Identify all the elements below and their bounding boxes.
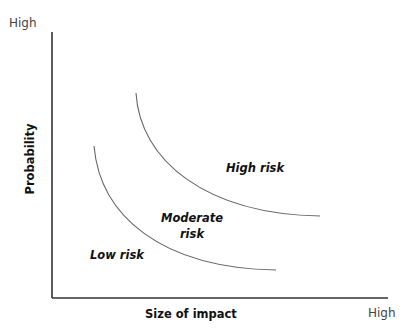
region-moderate-risk-line1: Moderate bbox=[157, 210, 227, 226]
curve-moderate-high bbox=[136, 93, 320, 216]
region-moderate-risk-line2: risk bbox=[157, 226, 227, 242]
x-axis-high-label: High bbox=[368, 306, 396, 320]
y-axis-title: Probability bbox=[23, 119, 37, 199]
x-axis-title: Size of impact bbox=[145, 307, 237, 321]
region-high-risk: High risk bbox=[226, 160, 284, 176]
y-axis-high-label: High bbox=[9, 16, 37, 30]
region-low-risk: Low risk bbox=[90, 247, 144, 263]
risk-diagram-canvas bbox=[0, 0, 406, 333]
region-moderate-risk: Moderate risk bbox=[157, 210, 227, 242]
